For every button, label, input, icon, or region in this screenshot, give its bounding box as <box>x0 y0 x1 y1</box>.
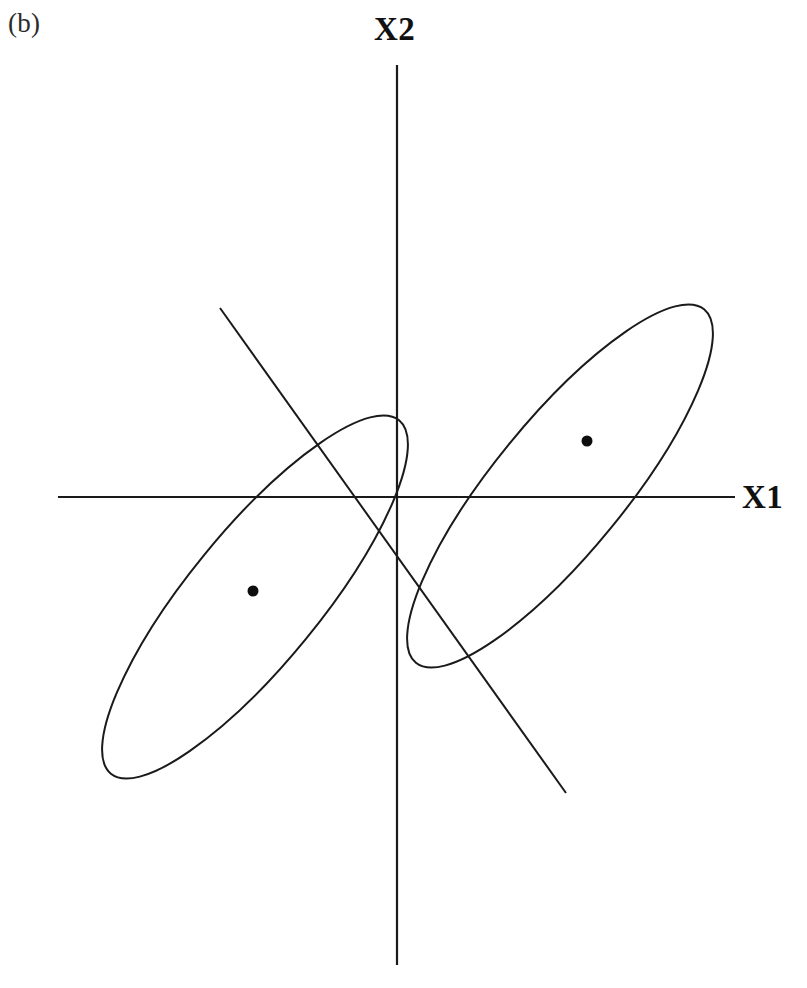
figure-canvas: (b) X2 X1 <box>0 0 807 988</box>
linear-decision-boundary <box>220 308 566 793</box>
figure-graphic <box>0 0 807 988</box>
class-1-ellipse <box>60 379 450 816</box>
class-2-ellipse <box>365 268 755 705</box>
class-2-centroid-dot <box>582 436 593 447</box>
y-axis-label: X2 <box>374 13 415 46</box>
x-axis-label: X1 <box>742 481 783 514</box>
class-1-centroid-dot <box>248 586 259 597</box>
